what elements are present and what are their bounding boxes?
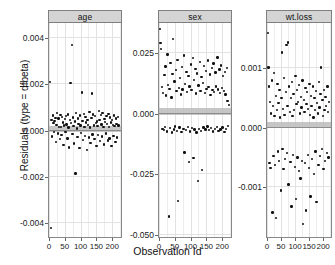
data-point [317,164,319,166]
data-point [295,103,297,105]
data-point [297,101,299,103]
gridline-horizontal [49,176,121,177]
data-point [271,211,273,213]
data-point [322,168,324,170]
data-point [79,124,81,126]
y-axis-tick-label: 0.000 [226,123,262,133]
x-axis-title: Observation Id [0,245,335,257]
data-point [103,118,105,120]
data-point [168,215,170,217]
data-point [275,95,277,97]
data-point [81,91,83,93]
data-point [68,146,70,148]
x-axis-tick-mark [267,238,268,241]
data-point [321,99,323,101]
data-point [91,133,93,135]
data-point [88,136,90,138]
y-axis-tick-label: 0.000 [8,126,44,136]
residual-dfbeta-chart: Residuals (type = dfbeta) age0.0040.0020… [0,0,335,265]
data-point [269,101,271,103]
gridline-horizontal [267,186,331,187]
x-axis-tick-mark [222,238,223,241]
data-point [77,117,79,119]
facet-strip-label: age [48,10,122,23]
data-point [221,126,223,128]
data-point [167,84,169,86]
data-point [162,92,164,94]
data-point [305,209,307,211]
data-point [78,147,80,149]
x-axis-tick-mark [49,238,50,241]
data-point [72,116,74,118]
data-point [300,106,302,108]
data-point [101,135,103,137]
gridline-vertical [295,23,296,237]
data-point [105,132,107,134]
data-point [210,127,212,129]
x-axis-tick-mark [323,238,324,241]
data-point [99,140,101,142]
data-point [174,125,176,127]
data-point [81,120,83,122]
data-point [117,124,119,126]
data-point [98,110,100,112]
data-point [308,83,310,85]
data-point [201,169,203,171]
data-point [269,167,271,169]
data-point [327,156,329,158]
data-point [107,113,109,115]
y-axis-tick-mark [45,223,48,224]
data-point [323,89,325,91]
plot-area [158,23,232,238]
data-point [280,97,282,99]
data-point [166,53,168,55]
data-point [179,77,181,79]
data-point [273,115,275,117]
data-point [193,79,195,81]
x-axis-tick-mark [81,238,82,241]
data-point [79,114,81,116]
data-point [277,102,279,104]
data-point [178,87,180,89]
data-point [209,94,211,96]
data-point [177,200,179,202]
data-point [285,44,287,46]
data-point [298,84,300,86]
data-point [324,96,326,98]
data-point [76,136,78,138]
data-point [194,68,196,70]
data-point [287,183,289,185]
data-point [285,91,287,93]
data-point [185,129,187,131]
data-point [171,73,173,75]
data-point [298,170,300,172]
y-axis-tick-mark [263,128,266,129]
data-point [304,87,306,89]
y-axis-tick-mark [155,174,158,175]
data-point [207,86,209,88]
data-point [199,90,201,92]
x-axis-tick-mark [281,238,282,241]
y-axis-tick-mark [155,235,158,236]
y-axis-tick-label: -0.025 [118,169,154,179]
data-point [294,166,296,168]
data-point [289,111,291,113]
data-point [276,83,278,85]
data-point [326,85,328,87]
data-point [176,130,178,132]
data-point [204,92,206,94]
data-point [290,97,292,99]
y-axis-tick-label: -0.002 [8,172,44,182]
x-axis-tick-mark [112,238,113,241]
gridline-vertical [267,23,268,237]
data-point [74,172,76,174]
data-point [289,161,291,163]
x-axis-tick-mark [65,238,66,241]
data-point [183,54,185,56]
data-point [176,59,178,61]
data-point [216,126,218,128]
gridline-horizontal [49,222,121,223]
data-point [228,104,230,106]
data-point [66,137,68,139]
data-point [304,162,306,164]
